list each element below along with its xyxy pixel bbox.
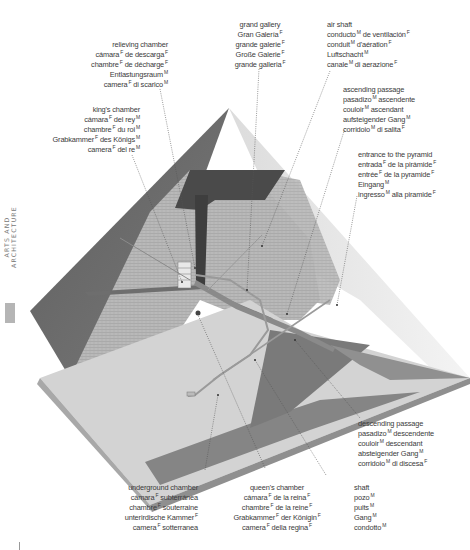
gender-marker: F [431, 169, 434, 175]
label-text: grand gallery [220, 20, 300, 30]
gender-marker: F [276, 512, 279, 518]
gender-marker: M [136, 114, 140, 120]
gender-marker: F [433, 159, 436, 165]
label-text: de la reina [273, 493, 306, 502]
gender-marker: F [155, 492, 158, 498]
label-line: entradaF de la pirámideF [358, 160, 436, 170]
label-descending-passage: descending passage pasadizoM descendente… [358, 419, 434, 469]
label-text: di scarico [133, 80, 163, 89]
gender-marker: F [282, 39, 285, 45]
label-text: Luftschacht [327, 50, 363, 59]
label-text: der Königin [281, 513, 317, 522]
label-text: pozo [354, 493, 369, 502]
label-text: des Königs [100, 135, 135, 144]
label-text: della regina [272, 523, 308, 532]
label-text: queen's chamber [222, 483, 332, 493]
gender-marker: M [136, 134, 140, 140]
gender-marker: M [349, 59, 353, 65]
label-text: chambre [129, 503, 157, 512]
gender-marker: M [386, 189, 390, 195]
label-text: conduit [327, 40, 350, 49]
label-line: chambreF du roiM [40, 125, 140, 135]
gender-marker: F [307, 492, 310, 498]
gender-marker: M [386, 458, 390, 464]
label-text: di discesa [392, 459, 423, 468]
label-ascending-passage: ascending passage pasadizoM ascendente c… [343, 85, 415, 135]
label-queens-chamber: queen's chamber cámaraF de la reinaF cha… [222, 483, 332, 533]
gender-marker: F [402, 124, 405, 130]
label-text: de ventilación [363, 30, 406, 39]
label-line: canaleM di aerazioneF [327, 60, 410, 70]
label-text: condotto [354, 523, 381, 532]
gender-marker: F [158, 502, 161, 508]
gender-marker: M [364, 49, 368, 55]
label-text: relieving chamber [70, 40, 168, 50]
label-line: cámaraF de la reinaF [222, 493, 332, 503]
label-relieving-chamber: relieving chamber cámaraF de descargaF c… [70, 40, 168, 90]
label-text: grande galerie [235, 40, 280, 49]
label-line: conductoM de ventilaciónF [327, 30, 410, 40]
gender-marker: M [365, 104, 369, 110]
gender-marker: F [281, 49, 284, 55]
label-text: alla piramide [392, 190, 432, 199]
label-text: del rey [114, 115, 135, 124]
gender-marker: M [370, 502, 374, 508]
gender-marker: F [128, 79, 131, 85]
label-line: pasadizoM descendente [358, 429, 434, 439]
label-text: entrada [358, 160, 382, 169]
label-text: chambre [91, 60, 119, 69]
gender-marker: M [380, 438, 384, 444]
label-text: pasadizo [358, 429, 386, 438]
gender-marker: F [120, 49, 123, 55]
label-text: corridoio [343, 125, 370, 134]
label-text: sotterranea [162, 523, 198, 532]
label-line: corridoioM di discesaF [358, 459, 434, 469]
label-text: entrée [358, 170, 378, 179]
label-text: de la pirámide [388, 160, 432, 169]
label-text: ingresso [358, 190, 385, 199]
gender-marker: F [379, 169, 382, 175]
gender-marker: F [271, 502, 274, 508]
label-text: Gran Galería [238, 30, 279, 39]
label-text: chambre [84, 125, 112, 134]
label-line: cameraF di scaricoM [70, 80, 168, 90]
gender-marker: M [164, 69, 168, 75]
label-text: king's chamber [40, 105, 140, 115]
label-line: Große GalerieF [220, 50, 300, 60]
gender-marker: M [370, 492, 374, 498]
label-line: chambreF de déchargeF [70, 60, 168, 70]
gender-marker: M [385, 179, 389, 185]
label-text: de la pyramide [384, 170, 430, 179]
label-line: pasadizoM ascendente [343, 95, 415, 105]
label-text: camera [242, 523, 266, 532]
gender-marker: F [269, 492, 272, 498]
label-line: corridoioM di salitaF [343, 125, 415, 135]
label-text: subterránea [160, 493, 198, 502]
gender-marker: F [388, 39, 391, 45]
label-line: Gran GaleríaF [220, 30, 300, 40]
gender-marker: F [318, 512, 321, 518]
gender-marker: M [371, 124, 375, 130]
label-line: condottoM [354, 523, 386, 533]
label-line: GrabkammerF der KöniginF [222, 513, 332, 523]
gender-marker: F [383, 159, 386, 165]
label-text: Entlastungsraum [110, 70, 163, 79]
label-text: de la reine [275, 503, 308, 512]
label-line: LuftschachtM [327, 50, 410, 60]
label-text: descendente [393, 429, 434, 438]
label-text: couloir [358, 439, 379, 448]
label-text: air shaft [327, 20, 410, 30]
label-text: camera [88, 145, 112, 154]
label-text: aufsteigender Gang [343, 115, 405, 124]
label-text: cámara [84, 115, 108, 124]
label-text: chambre [242, 503, 270, 512]
label-text: camera [133, 523, 157, 532]
gender-marker: M [419, 448, 423, 454]
label-text: descending passage [358, 419, 434, 429]
label-text: camera [104, 80, 128, 89]
gender-marker: F [165, 59, 168, 65]
gender-marker: M [406, 114, 410, 120]
label-text: ascendant [371, 105, 404, 114]
label-text: de descarga [125, 50, 164, 59]
label-text: Gang [354, 513, 371, 522]
